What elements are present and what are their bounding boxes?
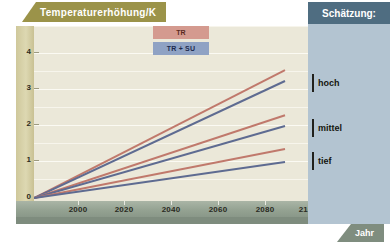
line-tr-hoch: [34, 70, 285, 198]
estimate-panel-header: Schätzung:: [308, 2, 390, 24]
estimate-item-tief: tief: [312, 152, 332, 170]
chart-title-banner: Temperaturerhöhung/K: [22, 2, 166, 22]
legend-item-trsu: TR + SU: [153, 42, 209, 55]
x-tick-label-2000: 2000: [69, 205, 88, 214]
y-tickmark-2: [34, 124, 39, 125]
legend-item-tr: TR: [153, 26, 209, 39]
page-title: Temperaturerhöhung/K: [40, 7, 156, 18]
bracket-icon: [312, 74, 314, 92]
y-tick-label-0: 0: [27, 193, 31, 201]
estimate-item-hoch: hoch: [312, 74, 340, 92]
x-tick-label-2080: 2080: [256, 205, 275, 214]
estimate-label-tief: tief: [318, 157, 332, 166]
y-axis: 4 3 2 1 0: [16, 26, 34, 208]
x-tick-label-2020: 2020: [115, 205, 134, 214]
y-tick-label-2: 2: [27, 120, 31, 128]
chart-figure: 4 3 2 1 0 2000 2020 2040 2060 2080 2100 …: [0, 0, 390, 247]
x-tick-label-2060: 2060: [209, 205, 228, 214]
y-tick-label-4: 4: [27, 48, 31, 56]
y-tick-label-3: 3: [27, 84, 31, 92]
y-tick-label-1: 1: [27, 156, 31, 164]
estimate-item-mittel: mittel: [312, 119, 342, 137]
estimate-header-label: Schätzung:: [322, 8, 376, 19]
y-tickmark-1: [34, 160, 39, 161]
legend: TR TR + SU: [153, 26, 209, 58]
line-trsu-mittel: [34, 126, 285, 198]
legend-label-trsu: TR + SU: [167, 45, 195, 52]
x-tick-label-2040: 2040: [162, 205, 181, 214]
y-tickmark-4: [34, 52, 39, 53]
y-tickmark-3: [34, 88, 39, 89]
estimate-label-hoch: hoch: [318, 79, 340, 88]
bracket-icon: [312, 119, 314, 137]
estimate-panel: [308, 2, 390, 224]
x-axis-shadow: [16, 217, 350, 224]
estimate-label-mittel: mittel: [318, 124, 342, 133]
bracket-icon: [312, 152, 314, 170]
x-axis-title-banner: Jahr: [337, 224, 384, 242]
x-axis-title: Jahr: [355, 228, 374, 238]
legend-label-tr: TR: [176, 29, 186, 36]
